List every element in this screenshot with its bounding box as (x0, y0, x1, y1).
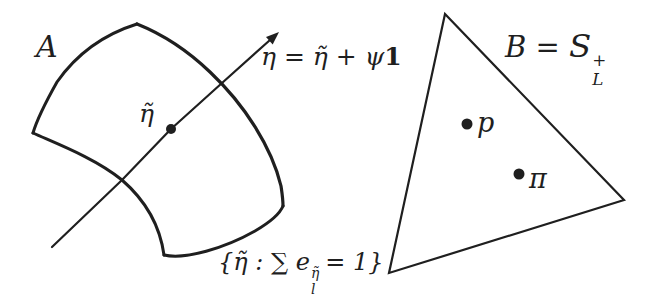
constraint-suffix: = 1} (325, 248, 383, 276)
arrow-equation-label: η = η̃ + ψ1 (261, 42, 402, 72)
constraint-prefix: {η̃ : ∑ e (218, 248, 310, 276)
arrow-equation-main: η = η̃ + ψ (261, 42, 384, 71)
region-b-superscript: + (592, 52, 606, 69)
eta-tilde-point-dot (166, 124, 176, 134)
constraint-superscript: η̃ (311, 267, 319, 281)
pi-point-dot (514, 169, 525, 180)
eta-arrow-line (52, 40, 270, 247)
arrow-equation-ones-vector: 1 (384, 42, 401, 71)
region-b-label-prefix: B = (505, 30, 569, 64)
constraint-set-label: {η̃ : ∑ eη̃l= 1} (218, 248, 384, 296)
region-b-label: B = S+L (505, 27, 606, 88)
math-diagram: A η̃ η = η̃ + ψ1 {η̃ : ∑ eη̃l= 1} B = S+… (0, 0, 662, 297)
region-b-subscript: L (592, 71, 603, 88)
pi-point-label: π (529, 163, 547, 195)
constraint-subscript: l (311, 283, 315, 297)
region-b-set-symbol: S (569, 27, 591, 65)
region-a-label: A (36, 29, 58, 65)
constraint-exponent-stack: η̃l (311, 267, 319, 297)
eta-tilde-point-label: η̃ (139, 99, 154, 129)
p-point-label: p (477, 107, 494, 139)
p-point-dot (462, 119, 473, 130)
region-a-inner-arc (33, 133, 164, 255)
region-b-script-stack: +L (592, 52, 606, 88)
